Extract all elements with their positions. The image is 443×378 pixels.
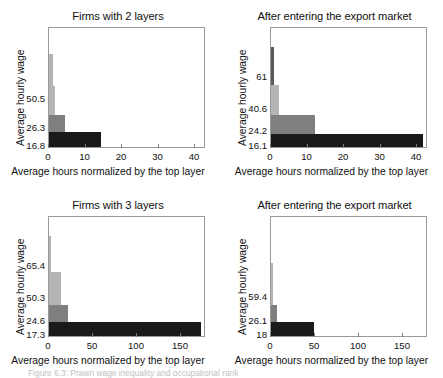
x-tick-mark [48,333,49,337]
x-tick-mark [270,144,271,148]
y-tick-label: 16.1 [241,141,267,151]
x-axis-label: Average hours normalized by the top laye… [0,166,216,177]
x-tick-mark [358,333,359,337]
x-tick-label: 40 [402,152,430,162]
plot-area [270,216,427,337]
x-tick-label: 0 [256,152,284,162]
x-tick-mark [307,144,308,148]
x-tick-label: 30 [144,152,172,162]
x-tick-label: 0 [34,152,62,162]
x-tick-mark [194,144,195,148]
x-tick-label: 100 [344,341,372,351]
bar-wage-50-5 [49,86,55,115]
y-tick-label: 26.1 [241,316,267,326]
x-tick-mark [121,144,122,148]
y-tick-label: 24.2 [241,126,267,136]
y-tick-label: 24.6 [19,316,45,326]
x-tick-mark [314,333,315,337]
x-tick-mark [92,333,93,337]
y-tick-label: 16.8 [19,141,45,151]
x-tick-mark [416,144,417,148]
x-tick-label: 50 [300,341,328,351]
x-axis-label: Average hours normalized by the top laye… [222,355,441,366]
bar-wage-16-1 [271,134,423,147]
bar-wage-24-6 [49,305,68,322]
bar-wage-50-3 [49,272,61,305]
y-tick-label: 50.5 [19,94,45,104]
x-tick-label: 10 [293,152,321,162]
x-tick-mark [402,333,403,337]
bar-wage-40-6 [271,85,279,115]
chart-panel-firms-3-layers: Firms with 3 layers Average hourly wage … [0,189,222,369]
x-tick-mark [48,144,49,148]
x-tick-mark [85,144,86,148]
chart-title: Firms with 2 layers [20,10,216,22]
bar-wage-16-8 [49,132,101,147]
x-tick-label: 50 [78,341,106,351]
y-tick-label: 26.3 [19,123,45,133]
chart-title: After entering the export market [228,199,441,211]
figure-panel-grid: Firms with 2 layers Average hourly wage … [0,0,443,378]
figure-caption: Figure 6.3: Prawn wage inequality and oc… [28,368,238,378]
x-tick-label: 10 [71,152,99,162]
bar-wage-26-1 [271,305,277,322]
y-tick-label: 61 [241,72,267,82]
chart-title: Firms with 3 layers [20,199,216,211]
y-tick-label: 17.3 [19,330,45,340]
x-tick-label: 20 [329,152,357,162]
bar-wage-26-3 [49,115,65,132]
x-tick-label: 150 [166,341,194,351]
bar-wage-18 [271,322,314,336]
x-tick-mark [136,333,137,337]
chart-title: After entering the export market [228,10,441,22]
x-tick-mark [180,333,181,337]
y-tick-label: 50.3 [19,293,45,303]
x-tick-label: 40 [180,152,208,162]
plot-area [270,27,427,148]
y-tick-label: 40.6 [241,104,267,114]
bar-wage-61 [271,47,274,85]
x-axis-label: Average hours normalized by the top laye… [0,355,216,366]
x-tick-label: 100 [122,341,150,351]
bar-wage-65-4 [49,236,51,272]
bar-wage-17-3 [49,322,201,336]
chart-panel-firms-2-layers: Firms with 2 layers Average hourly wage … [0,0,222,189]
bar-wage-59-4 [271,263,273,305]
x-tick-mark [158,144,159,148]
chart-panel-firms-2-layers-after-export: After entering the export market Average… [222,0,443,189]
x-tick-label: 0 [256,341,284,351]
x-tick-label: 150 [388,341,416,351]
chart-panel-firms-3-layers-after-export: After entering the export market Average… [222,189,443,369]
x-tick-label: 20 [107,152,135,162]
x-tick-label: 0 [34,341,62,351]
bar-wage-24-2 [271,115,315,134]
x-tick-mark [343,144,344,148]
x-tick-mark [270,333,271,337]
y-tick-label: 59.4 [241,292,267,302]
y-tick-label: 18 [241,330,267,340]
plot-area [48,216,205,337]
x-axis-label: Average hours normalized by the top laye… [222,166,441,177]
x-tick-label: 30 [366,152,394,162]
x-tick-mark [380,144,381,148]
bar-wage-top [49,54,53,86]
plot-area [48,27,205,148]
y-tick-label: 65.4 [19,261,45,271]
